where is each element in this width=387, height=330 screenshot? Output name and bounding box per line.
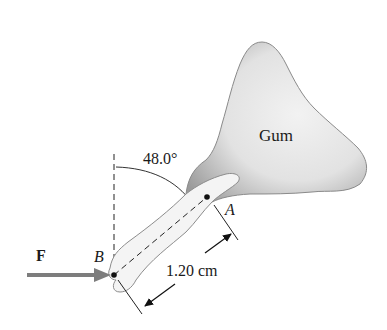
point-a-dot (204, 194, 210, 200)
point-a-label: A (224, 201, 235, 218)
force-label: F (36, 247, 46, 264)
force-arrow-head (94, 268, 111, 282)
point-b-label: B (94, 248, 104, 265)
length-label: 1.20 cm (166, 262, 218, 279)
tooth-gum-diagram: Gum 48.0° A B F 1.20 cm (0, 0, 387, 330)
point-b-dot (111, 272, 117, 278)
dimension-arrow-upper (205, 234, 231, 253)
dimension-arrow-lower (145, 284, 175, 306)
gum-label: Gum (259, 126, 293, 145)
angle-label: 48.0° (143, 150, 177, 167)
angle-arc (116, 167, 192, 203)
